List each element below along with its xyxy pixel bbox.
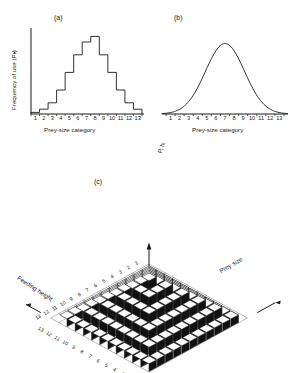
panel-b-plot	[152, 14, 294, 142]
panel-a-tick-12: 12	[125, 115, 134, 121]
panel-a-tick-7: 7	[82, 115, 91, 121]
panel-c-plot: 1234567891011121313121110987654321	[4, 146, 294, 371]
panel-b-tick-6: 6	[211, 115, 220, 121]
panel-b-tick-9: 9	[239, 115, 248, 121]
panel-b-tick-12: 12	[266, 115, 275, 121]
panel-c-feeding-height-tick-1: 1	[134, 260, 140, 267]
panel-b-tick-3: 3	[184, 115, 193, 121]
panel-b-tick-13: 13	[275, 115, 284, 121]
panel-c-prey-size-tick-7: 7	[87, 353, 93, 360]
panel-a-tick-10: 10	[108, 115, 117, 121]
panel-b-x-axis-label: Prey-size category	[192, 126, 243, 133]
panel-a-tick-6: 6	[74, 115, 83, 121]
panel-b: (b) 12345678910111213 Prey-size category	[152, 14, 294, 142]
panel-b-tick-11: 11	[257, 115, 266, 121]
panel-c-feeding-height-tick-2: 2	[126, 264, 132, 271]
panel-a-y-axis-label: Frequency of use (Pₕ)	[10, 50, 17, 110]
panel-c-prey-size-tick-5: 5	[104, 362, 110, 369]
panel-b-letter: (b)	[174, 14, 183, 21]
panel-a-tick-13: 13	[133, 115, 142, 121]
panel-c-feeding-height-tick-7: 7	[85, 287, 91, 294]
panel-b-tick-2: 2	[175, 115, 184, 121]
panel-c-prey-size-tick-9: 9	[71, 344, 77, 351]
panel-a-letter: (a)	[54, 14, 63, 21]
panel-c-prey-size-tick-10: 10	[62, 338, 70, 346]
panel-b-tick-10: 10	[248, 115, 257, 121]
panel-a-tick-4: 4	[57, 115, 66, 121]
panel-a: (a) Frequency of use (Pₕ) 12345678910111…	[6, 14, 146, 142]
panel-c-prey-size-tick-12: 12	[45, 329, 53, 337]
figure-root: (a) Frequency of use (Pₕ) 12345678910111…	[0, 0, 298, 373]
panel-a-tick-8: 8	[91, 115, 100, 121]
panel-b-tick-4: 4	[193, 115, 202, 121]
panel-c-prey-size-tick-8: 8	[79, 348, 85, 355]
panel-c-feeding-height-tick-9: 9	[68, 296, 74, 303]
panel-a-tick-1: 1	[31, 115, 40, 121]
panel-b-tick-8: 8	[229, 115, 238, 121]
panel-b-tick-5: 5	[202, 115, 211, 121]
panel-c-prey-size-tick-6: 6	[96, 357, 102, 364]
panel-c-feeding-height-tick-10: 10	[59, 299, 67, 307]
panel-c-feeding-height-tick-5: 5	[101, 278, 107, 285]
panel-c-feeding-height-tick-4: 4	[109, 273, 115, 280]
panel-c-feeding-height-tick-12: 12	[42, 308, 50, 316]
panel-c-feeding-height-tick-11: 11	[51, 304, 59, 312]
panel-a-tick-11: 11	[116, 115, 125, 121]
panel-c-prey-size-tick-4: 4	[112, 366, 118, 373]
panel-c-feeding-height-tick-13: 13	[34, 313, 42, 321]
panel-a-x-ticklabels: 12345678910111213	[31, 115, 142, 121]
panel-c-letter: (c)	[94, 178, 102, 185]
panel-a-x-axis-label: Prey-size category	[44, 126, 95, 133]
panel-b-tick-1: 1	[166, 115, 175, 121]
panel-c-feeding-height-tick-8: 8	[76, 291, 82, 298]
panel-a-tick-9: 9	[99, 115, 108, 121]
panel-c-feeding-height-tick-6: 6	[93, 282, 99, 289]
panel-a-tick-5: 5	[65, 115, 74, 121]
panel-c: (c) 1234567891011121313121110987654321 P…	[4, 146, 294, 371]
panel-b-tick-7: 7	[220, 115, 229, 121]
panel-a-tick-2: 2	[40, 115, 49, 121]
panel-b-x-ticklabels: 12345678910111213	[166, 115, 284, 121]
panel-c-feeding-height-tick-3: 3	[117, 269, 123, 276]
panel-a-plot	[6, 14, 146, 142]
panel-c-prey-size-tick-13: 13	[37, 325, 45, 333]
panel-a-tick-3: 3	[48, 115, 57, 121]
panel-c-prey-size-tick-11: 11	[54, 334, 62, 342]
